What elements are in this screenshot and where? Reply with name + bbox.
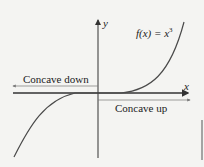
function-label: f(x) = x3 xyxy=(136,26,173,39)
x-axis-label: x xyxy=(184,80,189,92)
function-label-base: f(x) = x xyxy=(136,27,169,39)
concave-up-label: Concave up xyxy=(115,102,167,114)
y-axis-label: y xyxy=(103,17,108,29)
cubic-curve xyxy=(14,22,184,157)
function-exponent: 3 xyxy=(169,26,173,34)
concave-down-label: Concave down xyxy=(23,73,89,85)
